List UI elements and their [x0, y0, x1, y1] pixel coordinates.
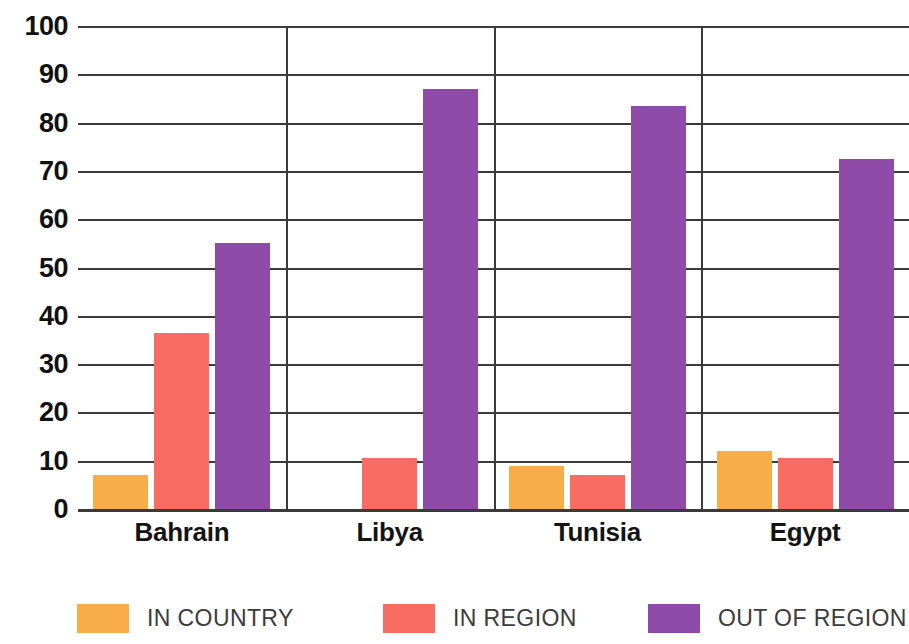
plot-area	[78, 26, 909, 509]
bar	[717, 451, 772, 509]
y-tick-label: 80	[0, 109, 68, 136]
group-divider	[701, 26, 703, 509]
legend-item[interactable]: OUT OF REGION	[648, 600, 907, 636]
y-tick-label: 10	[0, 447, 68, 474]
bar	[154, 333, 209, 509]
y-tick-label: 100	[0, 13, 68, 40]
x-tick-label: Libya	[286, 515, 494, 549]
bar	[570, 475, 625, 509]
bar	[778, 458, 833, 509]
bar-chart: 1009080706050403020100 BahrainLibyaTunis…	[0, 0, 909, 644]
x-axis: BahrainLibyaTunisiaEgypt	[78, 515, 909, 559]
chart-legend: IN COUNTRYIN REGIONOUT OF REGION	[0, 600, 909, 644]
y-tick-label: 50	[0, 254, 68, 281]
x-tick-label: Bahrain	[78, 515, 286, 549]
bar	[93, 475, 148, 509]
x-tick-label: Tunisia	[494, 515, 702, 549]
legend-label: IN COUNTRY	[147, 607, 294, 630]
legend-label: IN REGION	[453, 607, 577, 630]
legend-swatch	[77, 604, 129, 633]
y-tick-label: 90	[0, 61, 68, 88]
y-tick-label: 20	[0, 399, 68, 426]
x-tick-label: Egypt	[701, 515, 909, 549]
y-axis: 1009080706050403020100	[0, 0, 68, 530]
legend-label: OUT OF REGION	[718, 607, 907, 630]
y-tick-label: 0	[0, 496, 68, 523]
bar	[631, 106, 686, 509]
bar	[215, 243, 270, 509]
group-divider	[494, 26, 496, 509]
axis-baseline	[78, 509, 909, 512]
legend-swatch	[383, 604, 435, 633]
group-divider	[286, 26, 288, 509]
y-tick-label: 40	[0, 302, 68, 329]
legend-swatch	[648, 604, 700, 633]
legend-item[interactable]: IN COUNTRY	[77, 600, 294, 636]
legend-item[interactable]: IN REGION	[383, 600, 577, 636]
y-tick-label: 70	[0, 157, 68, 184]
bar	[362, 458, 417, 509]
bar	[509, 466, 564, 509]
y-tick-label: 30	[0, 351, 68, 378]
bar	[423, 89, 478, 509]
y-tick-label: 60	[0, 206, 68, 233]
bar	[839, 159, 894, 509]
